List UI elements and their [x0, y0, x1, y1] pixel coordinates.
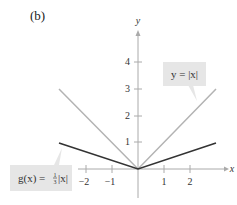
y-tick-label: 3: [125, 83, 130, 94]
y-tick-label: 1: [125, 136, 130, 147]
panel-label: (b): [30, 8, 45, 23]
callout-f-text: y = |x|: [171, 68, 198, 80]
axes: x y: [78, 15, 235, 198]
callout-g-denominator: 3: [54, 179, 57, 185]
x-tick-label: −2: [79, 176, 90, 187]
x-axis-arrow-icon: [224, 167, 229, 172]
chart: (b) x y −2 −1 1 2 1 2 3 4 y = |x|: [0, 0, 237, 205]
y-axis-arrow-icon: [136, 30, 141, 36]
callout-g-numerator: 1: [54, 172, 57, 178]
callout-g-suffix: |x|: [58, 172, 68, 184]
x-axis-label: x: [229, 163, 235, 174]
x-tick-label: 1: [162, 176, 167, 187]
callout-g-prefix: g(x) =: [18, 172, 45, 185]
callout-g: g(x) = 1 3 |x|: [10, 148, 72, 191]
x-tick-label: 2: [188, 176, 193, 187]
y-axis-label: y: [135, 15, 141, 26]
x-tick-label: −1: [105, 176, 116, 187]
callout-f: y = |x|: [163, 62, 206, 101]
y-tick-label: 2: [125, 110, 130, 121]
y-ticks: 1 2 3 4: [125, 56, 142, 147]
y-tick-label: 4: [125, 56, 130, 67]
